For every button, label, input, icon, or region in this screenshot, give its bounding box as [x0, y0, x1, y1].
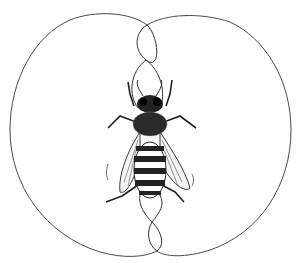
waggle-path-bottom	[140, 195, 162, 251]
waggle-dance-illustration	[0, 0, 299, 263]
bee	[106, 80, 196, 202]
right-loop-path	[147, 16, 291, 256]
left-loop-path	[10, 14, 157, 257]
illustration-svg	[0, 0, 299, 263]
